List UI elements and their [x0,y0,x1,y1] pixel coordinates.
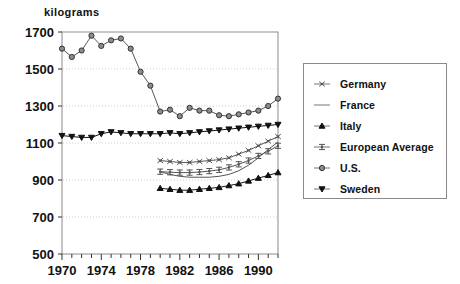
y-tick-label: 1100 [26,136,54,151]
data-point-circle [89,33,94,38]
legend-key-plus-bar-icon [313,140,335,154]
x-tick-label: 1978 [126,263,155,278]
x-tick-label: 1990 [244,263,273,278]
data-point-circle [128,46,133,51]
data-point-circle [59,46,64,51]
x-tick-label: 1986 [205,263,234,278]
legend-item-european-average[interactable]: European Average [304,136,446,157]
data-point-circle [319,165,324,170]
legend-item-sweden[interactable]: Sweden [304,178,446,199]
y-tick-label: 500 [32,247,54,262]
data-point-circle [148,83,153,88]
series-italy [157,170,281,193]
legend-item-germany[interactable]: Germany [304,73,446,94]
data-point-circle [108,38,113,43]
data-point-circle [216,113,221,118]
data-point-asterisk [265,139,271,144]
data-point-triangle-up [275,170,281,175]
legend-item-us[interactable]: U.S. [304,157,446,178]
series-sweden [59,122,281,140]
legend-marker-triangle-down [313,182,335,196]
legend-label: Italy [340,120,362,132]
legend-item-italy[interactable]: Italy [304,115,446,136]
legend-key-asterisk-icon [313,77,335,91]
x-tick-label: 1970 [48,263,77,278]
x-tick-label: 1974 [87,263,117,278]
legend-marker-asterisk [313,77,335,91]
legend-key-circle-icon [313,161,335,175]
data-point-circle [207,108,212,113]
data-point-circle [167,107,172,112]
data-point-circle [138,69,143,74]
legend-label: France [340,99,375,111]
data-point-circle [197,108,202,113]
legend-item-france[interactable]: France [304,94,446,115]
data-point-circle [69,54,74,59]
data-point-circle [79,48,84,53]
data-point-triangle-up [157,185,163,190]
data-point-circle [246,110,251,115]
legend-label: U.S. [340,162,361,174]
data-point-circle [118,36,123,41]
chart-root: kilograms 500700900110013001500170019701… [0,0,460,284]
data-point-asterisk [256,143,262,148]
data-point-triangle-down [177,132,183,137]
chart-legend: Germany France Italy European Average U.… [303,63,447,199]
legend-key-triangle-up-icon [313,119,335,133]
data-point-plus-bar [236,161,242,167]
series-u-s- [59,33,280,119]
y-tick-label: 1300 [25,99,54,114]
data-point-circle [275,96,280,101]
y-tick-label: 900 [32,173,54,188]
legend-label: Germany [340,78,386,90]
data-point-asterisk [236,152,242,157]
legend-marker-circle [313,161,335,175]
legend-key-triangle-down-icon [313,182,335,196]
plot-frame [62,32,278,254]
legend-label: Sweden [340,183,380,195]
data-point-circle [236,112,241,117]
data-point-circle [177,114,182,119]
data-point-circle [226,114,231,119]
y-tick-label: 1700 [25,25,54,40]
x-tick-label: 1982 [165,263,194,278]
data-point-circle [99,43,104,48]
data-point-circle [256,108,261,113]
y-tick-label: 1500 [25,62,54,77]
legend-marker-none [313,98,335,112]
legend-marker-triangle-up [313,119,335,133]
data-point-asterisk [246,148,252,153]
y-tick-label: 700 [32,210,54,225]
data-point-circle [158,109,163,114]
legend-marker-plus-bar [313,140,335,154]
legend-key-line-icon [313,98,335,112]
data-point-plus-bar [275,143,281,149]
data-point-circle [187,105,192,110]
data-point-circle [266,103,271,108]
series-germany [157,134,280,165]
legend-label: European Average [340,141,434,153]
data-point-plus-bar [246,158,252,164]
